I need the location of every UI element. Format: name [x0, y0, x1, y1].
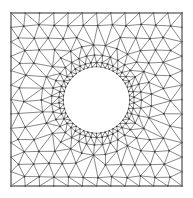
mesh-node	[135, 37, 137, 39]
mesh-edge	[126, 24, 141, 25]
mesh-edge	[79, 141, 87, 143]
mesh-edge	[83, 177, 96, 186]
mesh-edge	[140, 39, 149, 51]
mesh-node	[127, 53, 129, 55]
mesh-edge	[46, 77, 53, 88]
mesh-node	[140, 175, 142, 177]
mesh-node	[86, 55, 88, 57]
mesh-edge	[135, 151, 141, 165]
mesh-edge	[137, 128, 144, 138]
mesh-edge	[141, 24, 150, 38]
mesh-node	[155, 49, 157, 51]
mesh-edge	[56, 80, 62, 86]
mesh-edge	[24, 88, 43, 101]
mesh-node	[71, 137, 73, 139]
mesh-edge	[24, 102, 43, 112]
mesh-edge	[98, 178, 111, 186]
mesh-node	[116, 48, 118, 50]
mesh-edge	[155, 164, 164, 177]
mesh-edge	[110, 143, 117, 151]
mesh-edge	[11, 13, 24, 26]
mesh-edge	[79, 141, 82, 153]
mesh-edge	[168, 177, 170, 186]
mesh-edge	[130, 123, 135, 130]
mesh-diagram	[0, 0, 193, 198]
mesh-node	[70, 127, 72, 129]
mesh-node	[42, 111, 44, 113]
mesh-edge	[43, 77, 47, 88]
mesh-edge	[69, 177, 84, 178]
circular-hole	[64, 67, 129, 132]
mesh-edge	[164, 157, 182, 164]
mesh-node	[128, 80, 130, 82]
mesh-edge	[82, 153, 94, 155]
mesh-node	[33, 139, 35, 141]
mesh-node	[24, 176, 26, 178]
mesh-edge	[53, 108, 60, 112]
mesh-node	[112, 65, 114, 67]
mesh-edge	[155, 152, 165, 165]
mesh-node	[81, 46, 83, 48]
mesh-node	[163, 113, 165, 115]
mesh-edge	[112, 165, 121, 177]
mesh-edge	[103, 145, 106, 155]
mesh-edge	[97, 55, 103, 62]
mesh-edge	[55, 50, 61, 58]
mesh-edge	[127, 146, 134, 165]
mesh-edge	[11, 38, 18, 42]
mesh-node	[82, 25, 84, 27]
mesh-edge	[49, 151, 55, 163]
mesh-edge	[141, 24, 155, 25]
mesh-edge	[163, 26, 171, 38]
mesh-edge	[56, 119, 64, 120]
mesh-edge	[103, 55, 111, 57]
mesh-node	[93, 44, 95, 46]
mesh-edge	[65, 133, 71, 138]
mesh-node	[63, 80, 65, 82]
mesh-node	[70, 72, 72, 74]
mesh-edge	[150, 39, 156, 50]
mesh-edge	[103, 46, 106, 56]
mesh-node	[117, 130, 119, 132]
mesh-edge	[60, 126, 65, 132]
mesh-node	[117, 59, 119, 61]
mesh-edge	[163, 37, 170, 50]
mesh-node	[85, 135, 87, 137]
mesh-node	[18, 113, 20, 115]
mesh-edge	[65, 62, 71, 67]
mesh-node	[33, 37, 35, 39]
mesh-node	[134, 122, 136, 124]
mesh-edge	[19, 88, 24, 102]
mesh-node	[124, 134, 126, 136]
mesh-edge	[53, 50, 55, 67]
mesh-edge	[120, 26, 126, 38]
mesh-edge	[156, 13, 168, 25]
mesh-node	[162, 37, 164, 39]
mesh-node	[66, 123, 68, 125]
mesh-edge	[171, 85, 182, 101]
mesh-edge	[141, 92, 152, 94]
mesh-node	[131, 113, 133, 115]
mesh-node	[107, 63, 109, 65]
mesh-node	[23, 101, 25, 103]
mesh-edge	[71, 141, 79, 148]
mesh-edge	[118, 60, 125, 64]
mesh-edge	[39, 13, 40, 25]
mesh-edge	[86, 144, 93, 155]
mesh-edge	[52, 104, 53, 112]
mesh-node	[162, 88, 164, 90]
mesh-node	[143, 128, 145, 130]
mesh-node	[52, 133, 54, 135]
mesh-edge	[43, 112, 47, 123]
mesh-edge	[94, 154, 106, 155]
mesh-edge	[156, 50, 164, 62]
mesh-edge	[71, 128, 72, 138]
mesh-edge	[141, 140, 150, 151]
mesh-edge	[24, 140, 34, 152]
mesh-edge	[54, 13, 68, 25]
mesh-node	[76, 37, 78, 39]
mesh-node	[59, 126, 61, 128]
mesh-edge	[149, 114, 164, 118]
mesh-edge	[91, 137, 95, 145]
mesh-edge	[11, 100, 24, 102]
